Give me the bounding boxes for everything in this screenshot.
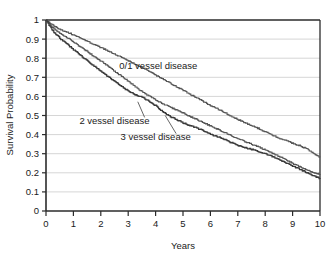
y-tick-label: 0.8 — [26, 53, 39, 64]
x-tick-label: 10 — [315, 218, 326, 229]
y-tick-label: 0.4 — [26, 129, 39, 140]
y-tick-label: 1 — [34, 14, 39, 25]
y-tick-label: 0.5 — [26, 110, 39, 121]
series-annotation-1: 0/1 vessel disease — [119, 60, 197, 71]
x-tick-label: 5 — [180, 218, 185, 229]
y-tick-label: 0.3 — [26, 148, 39, 159]
x-tick-label: 8 — [263, 218, 268, 229]
x-tick-label: 0 — [43, 218, 48, 229]
x-axis-title: Years — [171, 240, 195, 251]
y-tick-label: 0.7 — [26, 72, 39, 83]
chart-canvas: 00.10.20.30.40.50.60.70.80.91 0123456789… — [0, 0, 334, 255]
x-tick-label: 2 — [98, 218, 103, 229]
chart-background — [0, 0, 334, 255]
y-tick-label: 0.1 — [26, 186, 39, 197]
x-tick-label: 7 — [235, 218, 240, 229]
y-tick-label: 0.2 — [26, 167, 39, 178]
series-annotation-3: 3 vessel disease — [120, 131, 190, 142]
x-tick-label: 1 — [71, 218, 76, 229]
y-tick-label: 0 — [34, 205, 39, 216]
y-tick-label: 0.6 — [26, 91, 39, 102]
y-axis-title: Survival Probability — [4, 74, 15, 155]
x-tick-label: 9 — [290, 218, 295, 229]
survival-chart-figure: 00.10.20.30.40.50.60.70.80.91 0123456789… — [0, 0, 334, 255]
series-annotation-2: 2 vessel disease — [79, 115, 149, 126]
x-tick-label: 6 — [208, 218, 213, 229]
x-tick-label: 4 — [153, 218, 158, 229]
x-tick-label: 3 — [126, 218, 131, 229]
y-tick-label: 0.9 — [26, 34, 39, 45]
